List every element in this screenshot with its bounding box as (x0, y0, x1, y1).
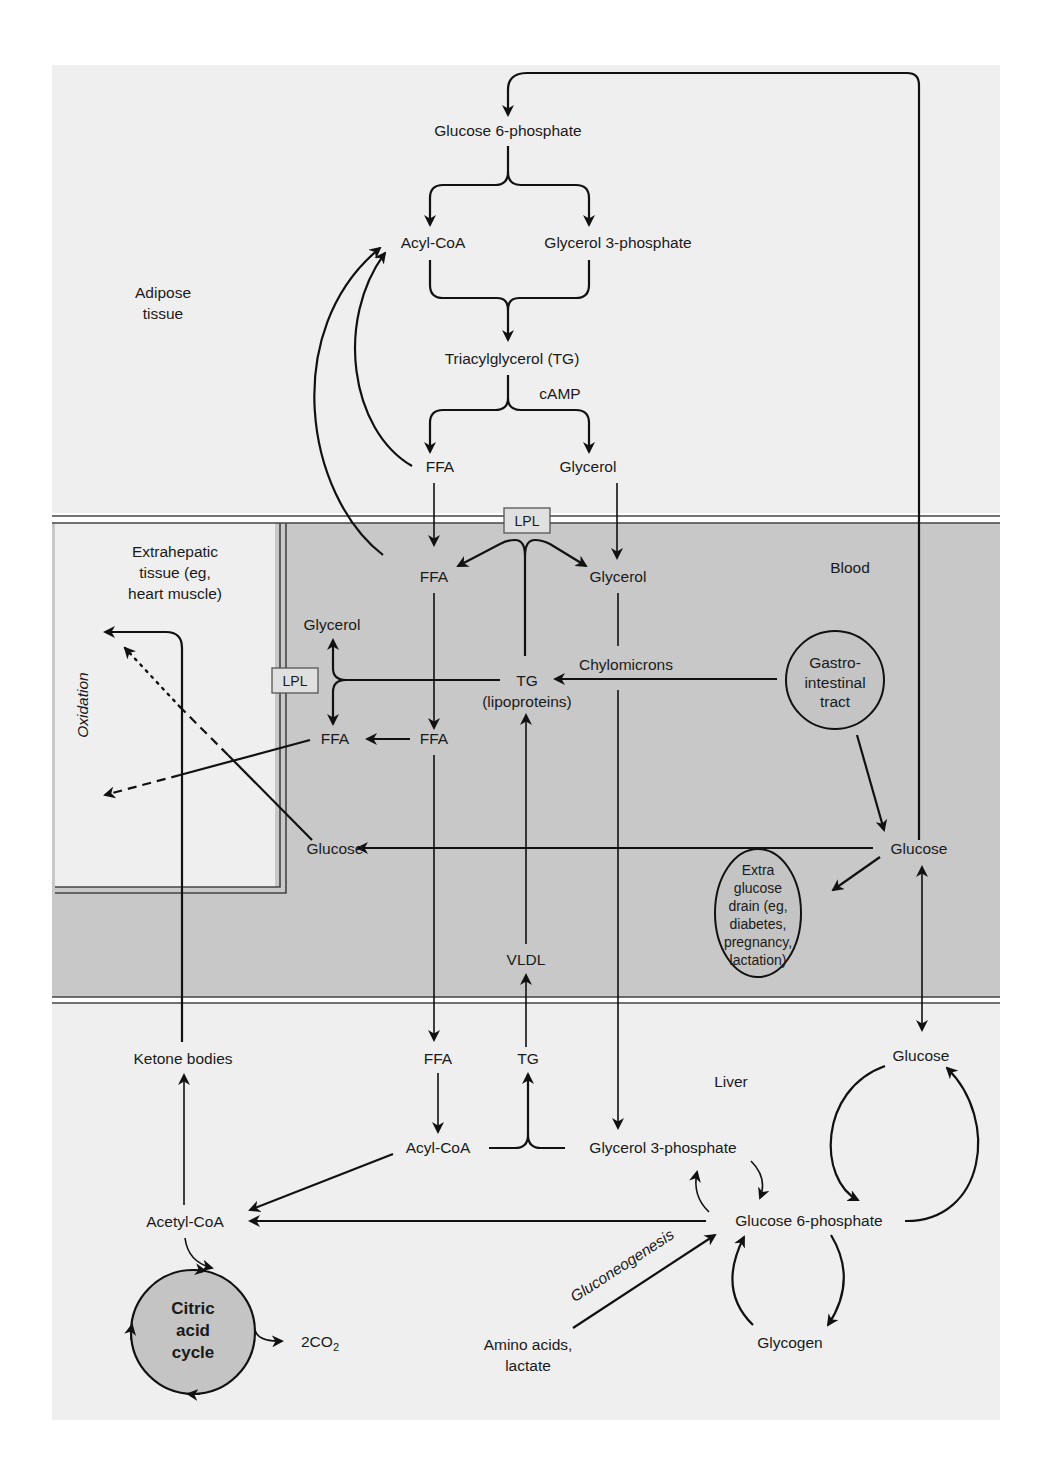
lpl-label-extrahepatic: LPL (283, 673, 308, 689)
region-label-blood: Blood (830, 559, 870, 576)
node-glucose6p-liver: Glucose 6-phosphate (735, 1212, 882, 1229)
drain-label-1: Extra (742, 862, 775, 878)
drain-label-6: lactation) (730, 952, 787, 968)
gi-label-1: Gastro- (809, 654, 861, 671)
node-glycerol-blood: Glycerol (590, 568, 647, 585)
lpl-label-top: LPL (515, 513, 540, 529)
node-glycogen: Glycogen (757, 1334, 822, 1351)
node-glucose6p-adipose: Glucose 6-phosphate (434, 122, 581, 139)
node-ffa-liver: FFA (424, 1050, 453, 1067)
region-label-extrahepatic-3: heart muscle) (128, 585, 222, 602)
node-glucose-extrahepatic: Glucose (307, 840, 364, 857)
node-acylcoa-liver: Acyl-CoA (406, 1139, 471, 1156)
node-glycerol-extrahepatic: Glycerol (304, 616, 361, 633)
node-tg-liver: TG (517, 1050, 539, 1067)
node-acetylcoa: Acetyl-CoA (146, 1213, 224, 1230)
metabolic-pathway-diagram: Adipose tissue Glucose 6-phosphate Acyl-… (0, 0, 1044, 1464)
citric-label-3: cycle (172, 1343, 215, 1362)
node-glucose-blood: Glucose (891, 840, 948, 857)
oxidation-label: Oxidation (74, 672, 91, 737)
node-ffa-adipose: FFA (426, 458, 455, 475)
co2-text: 2CO (301, 1333, 333, 1350)
region-label-adipose: Adipose (135, 284, 191, 301)
region-label-liver: Liver (714, 1073, 748, 1090)
region-label-extrahepatic-2: tissue (eg, (139, 564, 211, 581)
node-glycerol-adipose: Glycerol (560, 458, 617, 475)
node-lactate: lactate (505, 1357, 551, 1374)
node-triacylglycerol: Triacylglycerol (TG) (445, 350, 580, 367)
node-glycerol3p-liver: Glycerol 3-phosphate (589, 1139, 736, 1156)
co2-subscript: 2 (333, 1341, 339, 1353)
node-amino-acids: Amino acids, (484, 1336, 573, 1353)
region-label-adipose-2: tissue (143, 305, 184, 322)
node-ffa-blood: FFA (420, 568, 449, 585)
drain-label-5: pregnancy, (724, 934, 792, 950)
node-tg-lipoproteins-sub: (lipoproteins) (482, 693, 572, 710)
citric-label-2: acid (176, 1321, 210, 1340)
node-camp: cAMP (539, 385, 580, 402)
region-label-extrahepatic-1: Extrahepatic (132, 543, 218, 560)
node-glycerol3p-adipose: Glycerol 3-phosphate (544, 234, 691, 251)
node-ketone-bodies: Ketone bodies (133, 1050, 232, 1067)
node-acylcoa-adipose: Acyl-CoA (401, 234, 466, 251)
drain-label-3: drain (eg, (728, 898, 787, 914)
node-glucose-liver: Glucose (893, 1047, 950, 1064)
node-vldl: VLDL (507, 951, 546, 968)
drain-label-2: glucose (734, 880, 782, 896)
node-ffa-extrahepatic: FFA (321, 730, 350, 747)
gi-label-3: tract (820, 693, 851, 710)
node-ffa2-blood: FFA (420, 730, 449, 747)
drain-label-4: diabetes, (730, 916, 787, 932)
node-chylomicrons: Chylomicrons (579, 656, 673, 673)
node-tg-lipoproteins: TG (516, 672, 538, 689)
citric-label-1: Citric (171, 1299, 214, 1318)
gi-label-2: intestinal (804, 674, 865, 691)
